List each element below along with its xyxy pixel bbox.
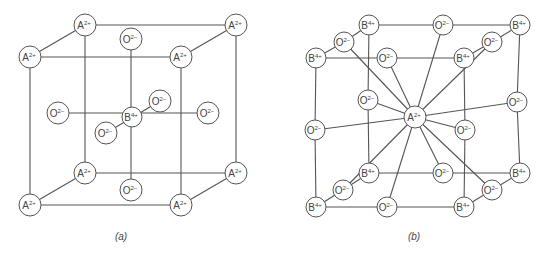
atom-O-ion: O2− — [120, 28, 142, 50]
atom-O-ion: O2− — [47, 102, 69, 124]
bond-line — [315, 117, 415, 130]
atom-A-ion: A2+ — [404, 106, 426, 128]
bond-line — [368, 25, 369, 100]
bond-line — [368, 100, 369, 173]
atom-B-ion: B4+ — [510, 163, 530, 183]
atom-O-ion: O2− — [333, 180, 353, 200]
atom-O-ion: O2− — [377, 197, 397, 217]
panel-a-atoms: A2+A2+A2+A2+O2−O2−B4+O2−O2−O2−A2+A2+A2+A… — [19, 14, 247, 216]
bond-line — [464, 130, 465, 207]
bond-line — [315, 58, 316, 130]
atom-B-ion: B4+ — [510, 15, 530, 35]
atom-O-ion: O2− — [482, 32, 502, 52]
atom-A-ion: A2+ — [74, 162, 96, 184]
atom-O-ion: O2− — [305, 120, 325, 140]
atom-A-ion: A2+ — [170, 46, 192, 68]
atom-O-ion: O2− — [455, 120, 475, 140]
atom-B-ion: B4+ — [306, 197, 326, 217]
panel-b-label: (b) — [408, 231, 420, 242]
bond-line — [415, 102, 517, 117]
atom-B-ion: B4+ — [359, 163, 379, 183]
panel-b-atoms: B4+O2−B4+O2−O2−B4+O2−B4+O2−O2−A2+O2−O2−B… — [305, 15, 530, 217]
atom-O-ion: O2− — [433, 163, 453, 183]
atom-O-ion: O2− — [334, 32, 354, 52]
atom-A-ion: A2+ — [74, 14, 96, 36]
atom-O-ion: O2− — [482, 180, 502, 200]
panel-a-label: (a) — [115, 231, 127, 242]
atom-A-ion: A2+ — [19, 194, 41, 216]
atom-O-ion: O2− — [433, 15, 453, 35]
atom-O-ion: O2− — [507, 92, 527, 112]
perovskite-diagram: A2+A2+A2+A2+O2−O2−B4+O2−O2−O2−A2+A2+A2+A… — [0, 0, 546, 257]
atom-B-ion: B4+ — [122, 107, 142, 127]
atom-O-ion: O2− — [358, 90, 378, 110]
atom-O-ion: O2− — [149, 90, 171, 112]
atom-A-ion: A2+ — [225, 14, 247, 36]
atom-O-ion: O2− — [120, 179, 142, 201]
atom-O-ion: O2− — [95, 122, 117, 144]
atom-A-ion: A2+ — [170, 194, 192, 216]
atom-A-ion: A2+ — [19, 46, 41, 68]
panel-b: B4+O2−B4+O2−O2−B4+O2−B4+O2−O2−A2+O2−O2−B… — [305, 15, 530, 242]
atom-A-ion: A2+ — [225, 162, 247, 184]
atom-B-ion: B4+ — [454, 197, 474, 217]
atom-B-ion: B4+ — [306, 48, 326, 68]
atom-O-ion: O2− — [197, 102, 219, 124]
bond-line — [315, 130, 316, 207]
bond-line — [415, 117, 492, 190]
bond-line — [517, 102, 520, 173]
atom-B-ion: B4+ — [359, 15, 379, 35]
atom-B-ion: B4+ — [454, 48, 474, 68]
bond-line — [517, 25, 520, 102]
atom-O-ion: O2− — [377, 48, 397, 68]
panel-a: A2+A2+A2+A2+O2−O2−B4+O2−O2−O2−A2+A2+A2+A… — [19, 14, 247, 242]
